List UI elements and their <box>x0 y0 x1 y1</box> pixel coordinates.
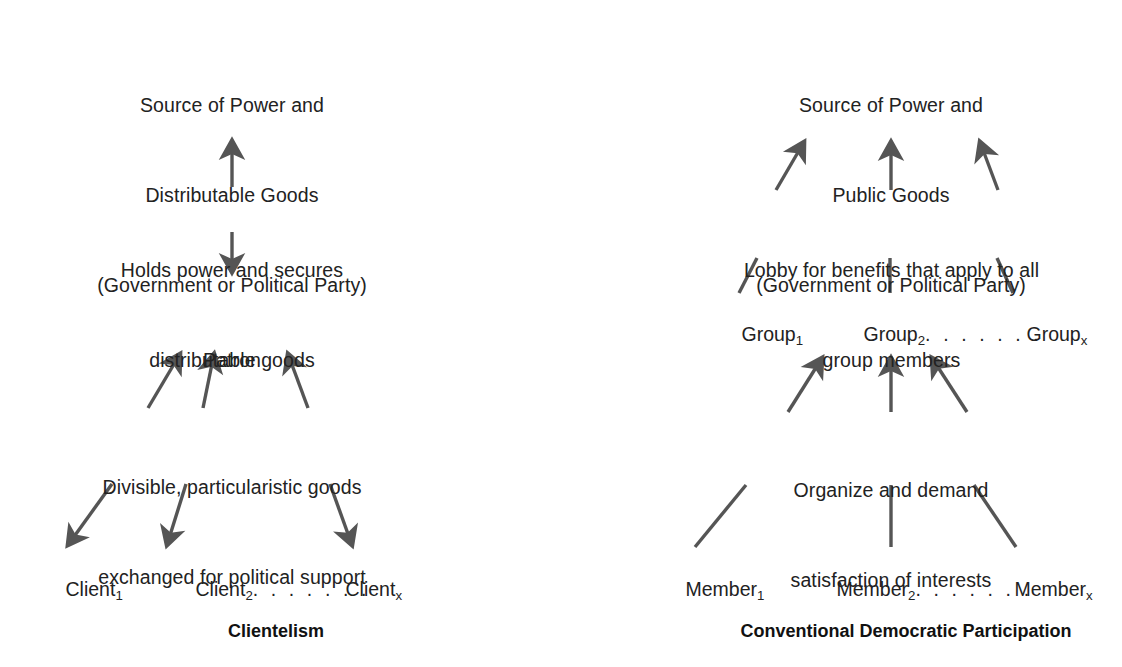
member-node-1-label: Member <box>686 578 758 600</box>
left-divisible-line-1: Divisible, particularistic goods <box>52 472 412 502</box>
group-node-1: Group1 <box>709 300 803 369</box>
left-source-line-1: Source of Power and <box>62 90 402 120</box>
figure-canvas: Source of Power and Distributable Goods … <box>0 0 1122 667</box>
client-node-x-label: Client <box>346 578 396 600</box>
clientelism-caption-text: Clientelism <box>228 621 324 641</box>
client-node-2-label: Client <box>196 578 246 600</box>
group-node-2-subscript: 2 <box>918 333 925 348</box>
group-node-x-subscript: x <box>1081 333 1088 348</box>
conventional-democratic-participation-panel: Source of Power and Public Goods (Govern… <box>561 0 1122 667</box>
group-node-1-subscript: 1 <box>796 333 803 348</box>
right-source-line-1: Source of Power and <box>721 90 1061 120</box>
left-holds-power-line-1: Holds power and secures <box>72 255 392 285</box>
group-node-x: Groupx <box>994 300 1087 369</box>
left-patron-text: Patron <box>132 345 332 375</box>
conventional-democratic-participation-caption: Conventional Democratic Participation <box>671 600 1111 663</box>
member-node-2-label: Member <box>837 578 909 600</box>
member-node-x-label: Member <box>1015 578 1087 600</box>
group-node-x-label: Group <box>1027 323 1081 345</box>
clientelism-caption: Clientelism <box>81 600 441 663</box>
right-organize-line-1: Organize and demand <box>731 475 1051 505</box>
client-node-1-label: Client <box>66 578 116 600</box>
group-node-2-label: Group <box>864 323 918 345</box>
conventional-caption-text: Conventional Democratic Participation <box>740 621 1071 641</box>
clientelism-panel: Source of Power and Distributable Goods … <box>0 0 561 667</box>
right-lobby-line-1: Lobby for benefits that apply to all <box>704 255 1079 285</box>
group-node-1-label: Group <box>742 323 796 345</box>
